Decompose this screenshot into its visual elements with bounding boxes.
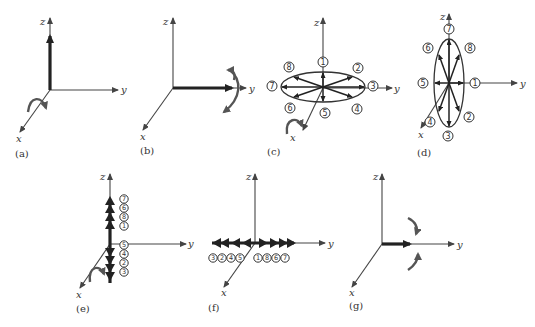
z-label: z <box>162 16 169 27</box>
caption-a: (a) <box>15 148 29 159</box>
rotation-arrow-icon <box>408 254 418 270</box>
figure-canvas: z y x (a) z y x (b) <box>0 0 535 327</box>
svg-text:3: 3 <box>445 132 450 141</box>
stacked-vectors <box>212 238 296 248</box>
svg-text:4: 4 <box>229 254 233 262</box>
panel-d: 7 8 1 2 3 4 5 6 z y x (d) <box>417 11 526 158</box>
panel-c: 1 2 3 4 5 6 7 8 z y x (c) <box>267 17 400 157</box>
z-label: z <box>372 171 379 182</box>
y-label: y <box>248 83 255 94</box>
svg-text:5: 5 <box>420 79 425 88</box>
svg-text:6: 6 <box>122 204 126 212</box>
svg-text:7: 7 <box>122 195 126 203</box>
svg-text:2: 2 <box>220 254 224 262</box>
caption-g: (g) <box>349 300 363 311</box>
z-label: z <box>439 11 446 22</box>
y-label: y <box>120 84 127 95</box>
caption-c: (c) <box>267 146 281 157</box>
x-axis <box>352 244 382 287</box>
x-label: x <box>16 133 22 144</box>
x-label: x <box>76 289 82 300</box>
rotation-arrow-icon <box>224 70 238 112</box>
x-axis <box>224 243 255 287</box>
x-axis <box>303 88 323 130</box>
z-label: z <box>99 171 106 182</box>
x-axis <box>80 244 110 288</box>
panel-f: 3 2 4 5 1 8 6 7 z y x (f) <box>208 171 334 313</box>
svg-text:2: 2 <box>355 64 360 73</box>
svg-text:6: 6 <box>287 104 292 113</box>
x-label: x <box>290 132 296 143</box>
svg-text:7: 7 <box>269 82 274 91</box>
svg-text:3: 3 <box>211 254 215 262</box>
z-label: z <box>313 17 320 28</box>
svg-text:3: 3 <box>370 82 375 91</box>
z-label: z <box>245 171 252 182</box>
svg-text:1: 1 <box>122 222 126 230</box>
x-label: x <box>418 129 424 140</box>
vectors <box>282 73 364 101</box>
svg-text:1: 1 <box>320 58 325 67</box>
panel-b: z y x (b) <box>140 16 255 156</box>
x-axis <box>20 90 50 132</box>
panel-e: 7 6 8 1 5 4 2 3 z y x (e) <box>76 171 194 314</box>
svg-text:5: 5 <box>238 254 242 262</box>
svg-text:8: 8 <box>467 44 472 53</box>
svg-text:2: 2 <box>122 259 126 267</box>
svg-text:5: 5 <box>322 109 327 118</box>
svg-text:8: 8 <box>122 213 126 221</box>
svg-text:6: 6 <box>425 44 430 53</box>
svg-text:1: 1 <box>472 79 477 88</box>
svg-text:4: 4 <box>122 250 126 258</box>
svg-text:4: 4 <box>427 118 432 127</box>
position-labels: 3 2 4 5 1 8 6 7 <box>209 254 289 262</box>
svg-text:3: 3 <box>122 268 126 276</box>
panel-g: z y x (g) <box>349 171 463 311</box>
vectors <box>435 40 463 126</box>
caption-e: (e) <box>76 303 90 314</box>
svg-text:8: 8 <box>286 63 291 72</box>
svg-text:5: 5 <box>122 241 126 249</box>
svg-text:7: 7 <box>283 254 287 262</box>
y-label: y <box>187 238 194 249</box>
position-labels: 7 6 8 1 5 4 2 3 <box>120 195 128 276</box>
y-label: y <box>519 78 526 89</box>
y-label: y <box>456 239 463 250</box>
rotation-arrow-icon <box>90 268 104 282</box>
y-label: y <box>327 238 334 249</box>
caption-b: (b) <box>140 145 154 156</box>
caption-f: (f) <box>208 302 220 313</box>
rotation-arrow-icon <box>28 99 46 112</box>
rotation-arrow-icon <box>228 70 235 80</box>
y-label: y <box>393 83 400 94</box>
rotation-arrow-icon <box>408 218 417 234</box>
svg-text:6: 6 <box>274 254 278 262</box>
x-label: x <box>349 287 355 298</box>
x-label: x <box>221 287 227 298</box>
x-axis <box>143 88 173 130</box>
caption-d: (d) <box>417 147 431 158</box>
svg-text:1: 1 <box>256 254 260 262</box>
svg-text:8: 8 <box>265 254 269 262</box>
z-label: z <box>39 16 46 27</box>
svg-text:7: 7 <box>446 25 451 34</box>
svg-text:4: 4 <box>354 105 359 114</box>
stacked-vectors <box>105 196 115 283</box>
x-label: x <box>140 131 146 142</box>
panel-a: z y x (a) <box>15 16 127 159</box>
svg-text:2: 2 <box>466 113 471 122</box>
